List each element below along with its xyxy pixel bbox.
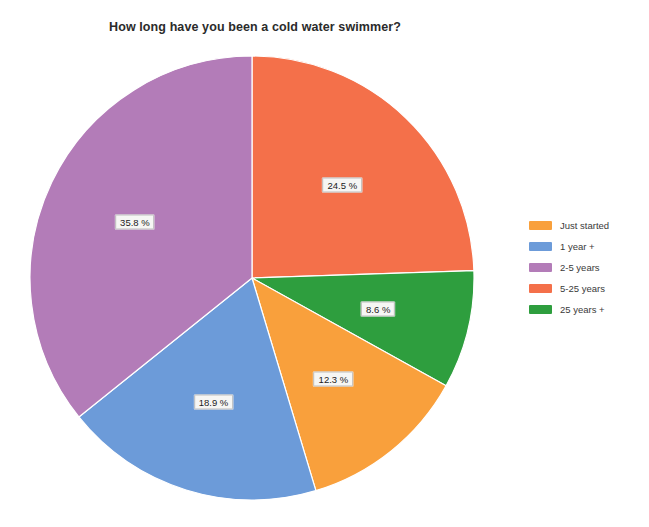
pie-slice-group xyxy=(30,56,474,500)
legend-color-swatch xyxy=(529,221,552,230)
legend-item-label: 2-5 years xyxy=(560,262,600,273)
legend-item-label: 25 years + xyxy=(560,304,605,315)
pie-chart-figure: How long have you been a cold water swim… xyxy=(0,0,649,527)
pie-slice-label: 24.5 % xyxy=(323,177,363,192)
pie-slice-label: 8.6 % xyxy=(361,301,395,316)
legend-item-1-year[interactable]: 1 year + xyxy=(529,236,644,256)
legend-item-2-5-years[interactable]: 2-5 years xyxy=(529,257,644,277)
pie-slice[interactable] xyxy=(252,56,474,278)
pie-slice-label: 18.9 % xyxy=(194,395,234,410)
pie-svg xyxy=(29,55,475,501)
chart-legend: Just started1 year +2-5 years5-25 years2… xyxy=(529,215,644,320)
legend-item-label: 1 year + xyxy=(560,241,595,252)
pie-plot-area: 24.5 %8.6 %12.3 %18.9 %35.8 % xyxy=(29,55,475,501)
pie-slice-label: 12.3 % xyxy=(314,372,354,387)
chart-title: How long have you been a cold water swim… xyxy=(0,20,510,34)
legend-color-swatch xyxy=(529,263,552,272)
legend-color-swatch xyxy=(529,284,552,293)
legend-color-swatch xyxy=(529,305,552,314)
pie-slice-label: 35.8 % xyxy=(115,214,155,229)
legend-item-label: Just started xyxy=(560,220,609,231)
legend-color-swatch xyxy=(529,242,552,251)
legend-item-5-25-years[interactable]: 5-25 years xyxy=(529,278,644,298)
legend-item-just-started[interactable]: Just started xyxy=(529,215,644,235)
legend-item-label: 5-25 years xyxy=(560,283,605,294)
legend-item-25-years[interactable]: 25 years + xyxy=(529,299,644,319)
